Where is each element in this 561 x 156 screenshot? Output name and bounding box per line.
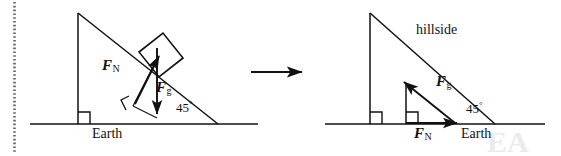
- right-earth-label: Earth: [461, 127, 491, 141]
- watermark-text: EA: [487, 125, 529, 156]
- hillside-label: hillside: [416, 23, 457, 37]
- watermark-group: EA: [487, 125, 529, 156]
- left-force-right-angle-marker: [121, 96, 129, 110]
- left-earth-label: Earth: [92, 127, 122, 141]
- left-gravity-force-label: Fg: [156, 80, 171, 96]
- right-incline-angle-label: 45°: [466, 101, 483, 115]
- left-hillside-slope: [78, 13, 218, 124]
- left-normal-force-label: FN: [102, 58, 120, 74]
- left-base-right-angle-marker: [78, 112, 90, 124]
- right-base-right-angle-marker: [370, 112, 382, 124]
- left-incline-angle-label: 45°: [176, 100, 193, 114]
- right-gravity-force-label: Fg: [436, 74, 451, 90]
- left-panel-group: [30, 13, 258, 124]
- block-on-incline: [139, 33, 183, 77]
- left-force-construction-line-b: [133, 106, 157, 118]
- right-normal-force-label: FN: [414, 126, 432, 142]
